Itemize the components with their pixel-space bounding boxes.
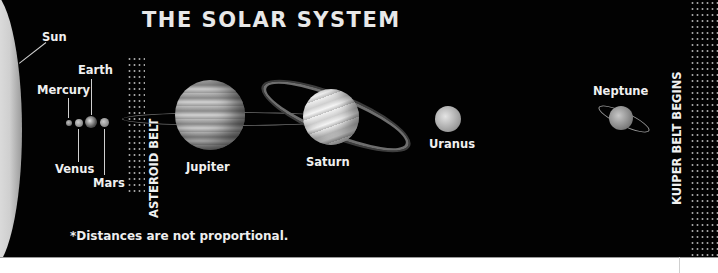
kuiper-belt <box>690 0 718 257</box>
uranus-label: Uranus <box>429 137 475 151</box>
mercury-planet <box>66 120 72 126</box>
earth-label: Earth <box>78 63 113 77</box>
mercury-label: Mercury <box>37 83 90 97</box>
earth-leader-line <box>91 79 92 115</box>
venus-label: Venus <box>55 162 94 176</box>
mercury-leader-line <box>68 98 69 118</box>
mars-label: Mars <box>93 176 125 190</box>
page-tick-mark <box>679 257 680 273</box>
kuiper-belt-label: KUIPER BELT BEGINS <box>670 71 684 205</box>
saturn-planet <box>303 89 359 145</box>
neptune-planet <box>609 106 633 130</box>
asteroid-belt-label: ASTEROID BELT <box>147 119 161 218</box>
sun-illustration <box>0 0 22 257</box>
asteroid-belt <box>127 56 145 196</box>
jupiter-planet <box>175 80 245 150</box>
venus-planet <box>75 119 83 127</box>
sun-leader-line <box>19 42 46 64</box>
uranus-planet <box>435 106 461 132</box>
jupiter-label: Jupiter <box>186 160 230 174</box>
diagram-title: THE SOLAR SYSTEM <box>142 8 401 32</box>
neptune-label: Neptune <box>593 84 648 98</box>
solar-system-diagram: THE SOLAR SYSTEM Sun Mercury Earth Venus… <box>0 0 718 257</box>
saturn-label: Saturn <box>306 155 350 169</box>
venus-leader-line <box>78 129 79 162</box>
earth-planet <box>85 116 97 128</box>
bottom-border <box>0 257 718 258</box>
distance-footnote: *Distances are not proportional. <box>70 229 288 243</box>
mars-planet <box>100 118 109 127</box>
mars-leader-line <box>104 129 105 175</box>
